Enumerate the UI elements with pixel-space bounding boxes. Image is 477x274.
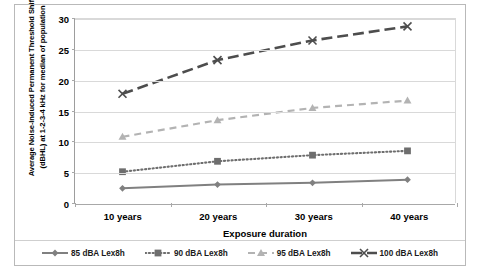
data-point-marker — [404, 97, 412, 104]
y-tick-mark — [72, 172, 75, 173]
legend-label: 90 dBA Lex8h — [174, 249, 228, 258]
legend-label: 85 dBA Lex8h — [71, 249, 125, 258]
series-line — [123, 101, 408, 137]
y-tick-label: 10 — [58, 137, 69, 148]
gridline — [75, 173, 455, 174]
x-tick-mark — [171, 203, 172, 207]
legend-item-85-dba-lex8h[interactable]: 85 dBA Lex8h — [42, 248, 125, 258]
x-tick-label: 30 years — [295, 211, 333, 222]
data-point-marker — [309, 179, 316, 186]
y-tick-label: 20 — [58, 75, 69, 86]
series-line — [123, 26, 408, 93]
gridline — [75, 81, 455, 82]
series-85-dba-lex8h — [119, 176, 411, 191]
series-line — [123, 151, 408, 172]
legend-item-90-dba-lex8h[interactable]: 90 dBA Lex8h — [145, 248, 228, 258]
legend-swatch-diamond-icon — [42, 248, 68, 258]
gridline — [75, 112, 455, 113]
gridline — [75, 204, 455, 205]
y-tick-label: 5 — [64, 168, 69, 179]
y-tick-label: 30 — [58, 14, 69, 25]
series-100-dba-lex8h — [119, 22, 412, 97]
data-point-marker — [404, 176, 411, 183]
x-tick-label: 40 years — [390, 211, 428, 222]
y-tick-label: 15 — [58, 106, 69, 117]
data-point-marker — [214, 158, 221, 165]
gridline — [75, 50, 455, 51]
plot-area: 05101520253010 years20 years30 years40 y… — [74, 18, 456, 203]
chart-legend: 85 dBA Lex8h90 dBA Lex8h95 dBA Lex8h100 … — [20, 244, 460, 262]
x-tick-label: 20 years — [199, 211, 237, 222]
y-tick-mark — [72, 111, 75, 112]
gridline — [75, 19, 455, 20]
x-tick-mark — [457, 203, 458, 207]
series-95-dba-lex8h — [119, 97, 412, 140]
data-point-marker — [214, 181, 221, 188]
legend-item-100-dba-lex8h[interactable]: 100 dBA Lex8h — [351, 248, 438, 258]
series-line — [123, 180, 408, 189]
y-tick-mark — [72, 18, 75, 19]
legend-swatch-square-icon — [145, 248, 171, 258]
legend-swatch-triangle-icon — [248, 248, 274, 258]
x-tick-mark — [362, 203, 363, 207]
x-tick-mark — [266, 203, 267, 207]
legend-swatch-cross-icon — [351, 248, 377, 258]
data-point-marker — [52, 250, 59, 257]
legend-item-95-dba-lex8h[interactable]: 95 dBA Lex8h — [248, 248, 331, 258]
y-tick-label: 0 — [64, 199, 69, 210]
legend-label: 100 dBA Lex8h — [380, 249, 438, 258]
x-tick-label: 10 years — [104, 211, 142, 222]
x-tick-mark — [75, 203, 76, 207]
y-tick-mark — [72, 49, 75, 50]
legend-divider — [15, 240, 465, 241]
series-90-dba-lex8h — [119, 147, 411, 175]
x-axis-title: Exposure duration — [74, 228, 456, 239]
y-tick-label: 25 — [58, 44, 69, 55]
y-tick-mark — [72, 141, 75, 142]
data-point-marker — [309, 152, 316, 159]
data-point-marker — [154, 250, 161, 257]
y-tick-mark — [72, 80, 75, 81]
gridline — [75, 142, 455, 143]
data-point-marker — [119, 185, 126, 192]
y-axis-title: Average Noise-Induced Permanent Threshol… — [27, 0, 61, 187]
chart-figure: Average Noise-Induced Permanent Threshol… — [0, 0, 477, 274]
data-point-marker — [404, 147, 411, 154]
legend-label: 95 dBA Lex8h — [277, 249, 331, 258]
